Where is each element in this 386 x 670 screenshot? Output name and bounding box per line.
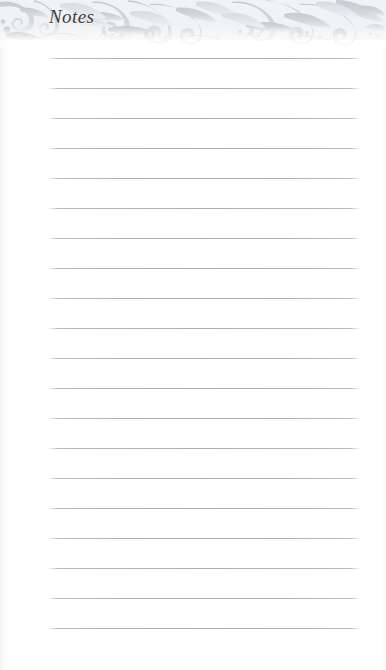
rule-line[interactable]: [48, 238, 360, 239]
rule-line[interactable]: [48, 448, 360, 449]
rule-line[interactable]: [48, 208, 360, 209]
rule-line[interactable]: [48, 328, 360, 329]
rule-line[interactable]: [48, 568, 360, 569]
rule-line[interactable]: [48, 538, 360, 539]
rule-line[interactable]: [48, 118, 360, 119]
rule-line[interactable]: [48, 478, 360, 479]
rule-line[interactable]: [48, 268, 360, 269]
rule-line[interactable]: [48, 508, 360, 509]
rule-line[interactable]: [48, 628, 360, 629]
rule-line[interactable]: [48, 178, 360, 179]
notes-page: Notes: [0, 0, 386, 670]
rule-line[interactable]: [48, 598, 360, 599]
rule-line[interactable]: [48, 298, 360, 299]
rule-line[interactable]: [48, 148, 360, 149]
rule-line[interactable]: [48, 358, 360, 359]
rule-line[interactable]: [48, 88, 360, 89]
ruled-lines-area[interactable]: [0, 0, 386, 670]
rule-line[interactable]: [48, 58, 360, 59]
rule-line[interactable]: [48, 388, 360, 389]
rule-line[interactable]: [48, 418, 360, 419]
